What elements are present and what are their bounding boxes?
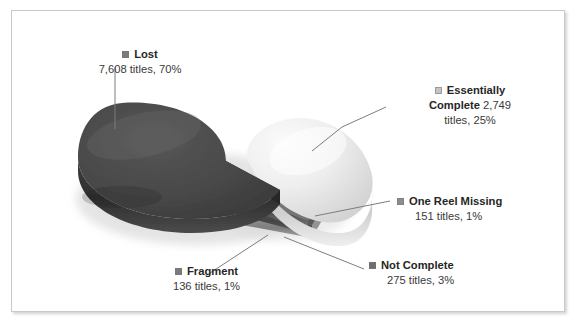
data-label-lost: Lost 7,608 titles, 70% — [45, 47, 235, 77]
legend-marker-not-complete — [369, 262, 376, 269]
data-label-lost-value: 7,608 titles, 70% — [99, 63, 182, 75]
data-label-essentially-complete-count: 2,749 — [480, 99, 511, 111]
leader-line-essentially-complete-b — [342, 107, 386, 127]
dark-slice-lower-shade — [82, 186, 162, 208]
data-label-not-complete-value: 275 titles, 3% — [369, 273, 544, 288]
data-label-lost-name: Lost — [134, 48, 158, 60]
data-label-not-complete-name: Not Complete — [381, 259, 454, 271]
legend-marker-fragment — [175, 268, 182, 275]
data-label-essentially-complete-name-line1: Essentially — [447, 84, 505, 96]
chart-frame: Lost 7,608 titles, 70% Essentially Compl… — [11, 10, 565, 312]
data-label-one-reel-missing: One Reel Missing 151 titles, 1% — [397, 194, 565, 224]
data-label-one-reel-missing-value: 151 titles, 1% — [397, 209, 565, 224]
legend-marker-lost — [122, 51, 129, 58]
data-label-essentially-complete-name-line2: Complete — [429, 99, 480, 111]
data-label-fragment-name: Fragment — [187, 265, 238, 277]
data-label-fragment-value: 136 titles, 1% — [173, 280, 240, 292]
data-label-fragment: Fragment 136 titles, 1% — [124, 264, 289, 294]
data-label-not-complete: Not Complete 275 titles, 3% — [369, 258, 544, 288]
data-label-one-reel-missing-name: One Reel Missing — [409, 195, 502, 207]
data-label-essentially-complete-value: titles, 25% — [444, 114, 496, 126]
legend-marker-one-reel-missing — [397, 198, 404, 205]
data-label-essentially-complete: Essentially Complete 2,749 titles, 25% — [394, 83, 546, 127]
legend-marker-essentially-complete — [435, 87, 442, 94]
